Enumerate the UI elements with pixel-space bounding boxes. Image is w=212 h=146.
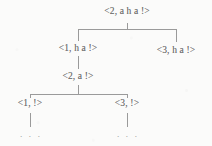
connector-middle-crossbar	[30, 94, 128, 95]
derivation-tree-figure: <2, a h a !> <1, h a !> <3, h a !> <2, a…	[0, 0, 212, 146]
connector-middle-stem	[78, 85, 79, 94]
connector-leaf-left-continuation	[30, 113, 31, 127]
connector-root-crossbar	[78, 29, 177, 30]
tree-node-middle: <2, a !>	[62, 71, 93, 82]
paper-grain-texture	[0, 0, 212, 146]
tree-node-left-child: <1, h a !>	[59, 43, 98, 54]
connector-root-to-left-child	[78, 29, 79, 41]
tree-node-root: <2, a h a !>	[104, 6, 150, 17]
connector-leaf-right-continuation	[127, 113, 128, 127]
tree-node-leaf-left: <1, !>	[18, 98, 42, 109]
ellipsis-under-leaf-left: . . .	[20, 130, 42, 139]
connector-root-to-right-child	[176, 29, 177, 42]
ellipsis-under-leaf-right: . . .	[117, 130, 139, 139]
tree-node-leaf-right: <3, !>	[115, 98, 139, 109]
connector-left-child-to-middle	[78, 56, 79, 69]
tree-node-right-child: <3, h a !>	[157, 45, 196, 56]
